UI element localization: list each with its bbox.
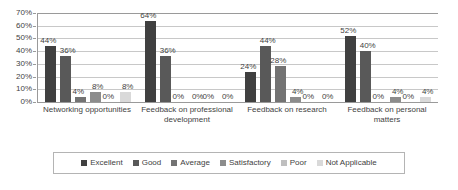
y-axis-tick-mark bbox=[33, 89, 36, 90]
bar-value-label: 0% bbox=[303, 93, 315, 101]
legend-swatch-icon bbox=[171, 160, 177, 166]
bar-slot: 0% bbox=[105, 13, 116, 102]
plot-area: 44%36%4%8%0%8%64%36%0%0%0%0%24%44%28%4%0… bbox=[37, 13, 438, 103]
bar-slot: 4% bbox=[420, 13, 431, 102]
y-axis: 70%60%50%40%30%20%10%0% bbox=[0, 13, 35, 102]
y-axis-tick-label: 40% bbox=[16, 47, 32, 55]
bar-slot: 52% bbox=[345, 13, 356, 102]
legend-item-label: Satisfactory bbox=[229, 159, 271, 167]
bar-group: 52%40%0%4%0%4% bbox=[338, 13, 438, 102]
bar-group: 64%36%0%0%0%0% bbox=[138, 13, 238, 102]
y-axis-tick-mark bbox=[33, 64, 36, 65]
legend-item[interactable]: Not Applicable bbox=[317, 159, 377, 167]
bar[interactable] bbox=[90, 92, 101, 102]
x-axis-category-label: Feedback on professional development bbox=[137, 105, 237, 143]
legend-item[interactable]: Poor bbox=[281, 159, 307, 167]
y-axis-tick-mark bbox=[33, 77, 36, 78]
bar-slot: 4% bbox=[290, 13, 301, 102]
bar-slot: 36% bbox=[60, 13, 71, 102]
bar[interactable] bbox=[360, 51, 371, 102]
bar-slot: 0% bbox=[205, 13, 216, 102]
legend-item-label: Excellent bbox=[90, 159, 122, 167]
legend-swatch-icon bbox=[81, 160, 87, 166]
bar-slot: 24% bbox=[245, 13, 256, 102]
legend-swatch-icon bbox=[133, 160, 139, 166]
bar-value-label: 52% bbox=[340, 27, 356, 35]
y-axis-tick-mark bbox=[33, 38, 36, 39]
bar[interactable] bbox=[145, 21, 156, 102]
y-axis-tick-label: 70% bbox=[16, 9, 32, 17]
bar-value-label: 4% bbox=[73, 88, 85, 96]
bar-value-label: 0% bbox=[373, 93, 385, 101]
legend-item[interactable]: Average bbox=[171, 159, 210, 167]
bar-slot: 8% bbox=[120, 13, 131, 102]
bar-value-label: 28% bbox=[270, 57, 286, 65]
bar[interactable] bbox=[260, 46, 271, 102]
bar-value-label: 0% bbox=[103, 93, 115, 101]
bar-slot: 36% bbox=[160, 13, 171, 102]
bar-slot: 4% bbox=[390, 13, 401, 102]
bar-value-label: 24% bbox=[240, 63, 256, 71]
bar[interactable] bbox=[45, 46, 56, 102]
legend-item[interactable]: Satisfactory bbox=[220, 159, 271, 167]
bar-value-label: 0% bbox=[173, 93, 185, 101]
bar[interactable] bbox=[275, 66, 286, 102]
x-axis-category-label: Feedback on personal matters bbox=[337, 105, 437, 143]
bar-value-label: 40% bbox=[360, 42, 376, 50]
bar-chart: 70%60%50%40%30%20%10%0% 44%36%4%8%0%8%64… bbox=[0, 0, 458, 190]
bar[interactable] bbox=[160, 56, 171, 102]
bar-slot: 0% bbox=[305, 13, 316, 102]
legend-swatch-icon bbox=[281, 160, 287, 166]
bar-value-label: 36% bbox=[60, 47, 76, 55]
bar[interactable] bbox=[75, 97, 86, 102]
legend-item-label: Poor bbox=[290, 159, 307, 167]
y-axis-tick-mark bbox=[33, 13, 36, 14]
bar-slot: 44% bbox=[45, 13, 56, 102]
bar-group: 44%36%4%8%0%8% bbox=[38, 13, 138, 102]
bar-value-label: 4% bbox=[422, 88, 434, 96]
bar-slot: 0% bbox=[405, 13, 416, 102]
legend-item-label: Good bbox=[142, 159, 162, 167]
bar-value-label: 0% bbox=[222, 93, 234, 101]
y-axis-tick-label: 60% bbox=[16, 22, 32, 30]
bar-slot: 64% bbox=[145, 13, 156, 102]
bar-value-label: 64% bbox=[140, 12, 156, 20]
bar-slot: 0% bbox=[190, 13, 201, 102]
x-axis-category-label: Networking opportunities bbox=[37, 105, 137, 143]
legend-item-label: Average bbox=[180, 159, 210, 167]
bar-value-label: 36% bbox=[160, 47, 176, 55]
bar[interactable] bbox=[120, 92, 131, 102]
bar[interactable] bbox=[290, 97, 301, 102]
bar-slot: 0% bbox=[175, 13, 186, 102]
bar[interactable] bbox=[345, 36, 356, 102]
legend-item[interactable]: Excellent bbox=[81, 159, 122, 167]
bar-groups: 44%36%4%8%0%8%64%36%0%0%0%0%24%44%28%4%0… bbox=[38, 13, 438, 102]
bar-value-label: 0% bbox=[322, 93, 334, 101]
legend-swatch-icon bbox=[220, 160, 226, 166]
chart-legend: ExcellentGoodAverageSatisfactoryPoorNot … bbox=[53, 152, 405, 174]
legend-item[interactable]: Good bbox=[133, 159, 162, 167]
bar-value-label: 8% bbox=[122, 83, 134, 91]
legend-item-label: Not Applicable bbox=[326, 159, 377, 167]
y-axis-tick-mark bbox=[33, 26, 36, 27]
legend-swatch-icon bbox=[317, 160, 323, 166]
y-axis-tick-mark bbox=[33, 102, 36, 103]
bar-slot: 0% bbox=[375, 13, 386, 102]
x-axis-category-label: Feedback on research bbox=[237, 105, 337, 143]
bar[interactable] bbox=[420, 97, 431, 102]
bar-slot: 40% bbox=[360, 13, 371, 102]
x-axis: Networking opportunitiesFeedback on prof… bbox=[37, 105, 437, 143]
y-axis-tick-label: 30% bbox=[16, 60, 32, 68]
y-axis-tick-label: 0% bbox=[20, 98, 32, 106]
bar[interactable] bbox=[245, 72, 256, 103]
y-axis-tick-label: 20% bbox=[16, 73, 32, 81]
bar[interactable] bbox=[390, 97, 401, 102]
bar-value-label: 44% bbox=[260, 37, 276, 45]
bar-value-label: 44% bbox=[40, 37, 56, 45]
bar-slot: 8% bbox=[90, 13, 101, 102]
y-axis-tick-label: 50% bbox=[16, 34, 32, 42]
bar-value-label: 0% bbox=[403, 93, 415, 101]
bar-group: 24%44%28%4%0%0% bbox=[238, 13, 338, 102]
bar-slot: 0% bbox=[320, 13, 331, 102]
bar[interactable] bbox=[60, 56, 71, 102]
